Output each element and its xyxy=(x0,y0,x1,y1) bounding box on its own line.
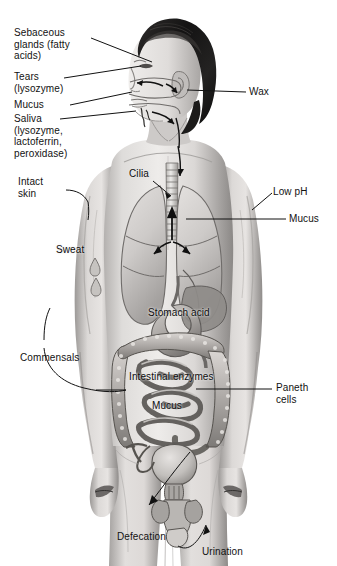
label-stomach-acid: Stomach acid xyxy=(148,307,210,319)
label-low-ph: Low pH xyxy=(273,186,308,198)
label-sweat: Sweat xyxy=(56,244,84,256)
label-mucus-gut: Mucus xyxy=(152,400,182,412)
label-saliva: Saliva (lysozyme, lactoferrin, peroxidas… xyxy=(14,113,67,159)
leader-mucus-nose xyxy=(70,92,132,105)
diagram-canvas: Sebaceous glands (fatty acids) Tears (ly… xyxy=(0,0,337,566)
label-mucus-lung: Mucus xyxy=(289,213,319,225)
label-paneth-cells: Paneth cells xyxy=(276,382,308,405)
label-defecation: Defecation xyxy=(117,531,166,543)
label-mucus-nose: Mucus xyxy=(14,99,44,111)
label-sebaceous-glands: Sebaceous glands (fatty acids) xyxy=(14,27,70,62)
label-intact-skin: Intact skin xyxy=(18,176,43,199)
label-wax: Wax xyxy=(249,86,269,98)
leader-lowph xyxy=(252,193,272,210)
leader-saliva xyxy=(60,111,136,119)
label-commensals: Commensals xyxy=(20,352,79,364)
label-urination: Urination xyxy=(202,546,243,558)
label-tears: Tears (lysozyme) xyxy=(14,71,63,94)
label-intestinal-enzymes: Intestinal enzymes xyxy=(129,371,214,383)
leader-commensals-top xyxy=(44,308,50,340)
label-cilia: Cilia xyxy=(129,168,149,180)
head xyxy=(129,19,217,134)
